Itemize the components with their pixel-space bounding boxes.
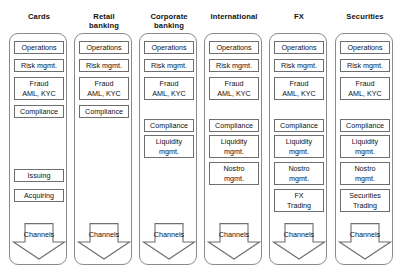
capability-box[interactable]: Risk mgmt.: [340, 59, 390, 72]
capability-map-diagram: CardsOperationsRisk mgmt.Fraud AML, KYCC…: [0, 0, 403, 277]
capability-box[interactable]: Fraud AML, KYC: [340, 77, 390, 100]
capability-box[interactable]: Compliance: [340, 119, 390, 132]
pillar-fx: OperationsRisk mgmt.Fraud AML, KYCCompli…: [269, 33, 327, 265]
capability-box[interactable]: FX Trading: [274, 189, 324, 212]
column-cards: CardsOperationsRisk mgmt.Fraud AML, KYCC…: [9, 0, 69, 277]
capability-box[interactable]: Risk mgmt.: [209, 59, 259, 72]
channels-arrow[interactable]: Channels: [77, 223, 131, 260]
capability-box[interactable]: Operations: [209, 41, 259, 54]
capability-box[interactable]: Nostro mgmt.: [209, 162, 259, 185]
capability-box[interactable]: Fraud AML, KYC: [79, 77, 129, 100]
capability-box[interactable]: Risk mgmt.: [14, 59, 64, 72]
capability-box[interactable]: Fraud AML, KYC: [274, 77, 324, 100]
capability-box[interactable]: Compliance: [274, 119, 324, 132]
channels-label: Channels: [12, 230, 66, 239]
capability-box[interactable]: Compliance: [209, 119, 259, 132]
capability-box[interactable]: Operations: [340, 41, 390, 54]
column-title-fx: FX: [263, 12, 335, 21]
channels-arrow[interactable]: Channels: [12, 223, 66, 260]
column-fx: FXOperationsRisk mgmt.Fraud AML, KYCComp…: [269, 0, 329, 277]
capability-box[interactable]: Fraud AML, KYC: [14, 77, 64, 100]
capability-box[interactable]: Liquidity mgmt.: [340, 135, 390, 158]
capability-box[interactable]: Liquidity mgmt.: [144, 135, 194, 158]
pillar-international: OperationsRisk mgmt.Fraud AML, KYCCompli…: [204, 33, 262, 265]
capability-box[interactable]: Compliance: [79, 105, 129, 118]
pillar-retail-banking: OperationsRisk mgmt.Fraud AML, KYCCompli…: [74, 33, 132, 265]
channels-arrow[interactable]: Channels: [207, 223, 261, 260]
pillar-cards: OperationsRisk mgmt.Fraud AML, KYCCompli…: [9, 33, 67, 265]
capability-box[interactable]: Risk mgmt.: [79, 59, 129, 72]
capability-box[interactable]: Securities Trading: [340, 189, 390, 212]
capability-box[interactable]: Operations: [144, 41, 194, 54]
capability-box[interactable]: Fraud AML, KYC: [144, 77, 194, 100]
capability-box[interactable]: Compliance: [14, 105, 64, 118]
capability-box[interactable]: Issuing: [14, 169, 64, 182]
channels-arrow[interactable]: Channels: [272, 223, 326, 260]
column-retail-banking: Retail bankingOperationsRisk mgmt.Fraud …: [74, 0, 134, 277]
pillar-securities: OperationsRisk mgmt.Fraud AML, KYCCompli…: [335, 33, 393, 265]
column-corporate-banking: Corporate bankingOperationsRisk mgmt.Fra…: [139, 0, 199, 277]
capability-box[interactable]: Operations: [79, 41, 129, 54]
channels-label: Channels: [77, 230, 131, 239]
column-international: InternationalOperationsRisk mgmt.Fraud A…: [204, 0, 264, 277]
capability-box[interactable]: Fraud AML, KYC: [209, 77, 259, 100]
column-title-securities: Securities: [329, 12, 401, 21]
capability-box[interactable]: Liquidity mgmt.: [274, 135, 324, 158]
capability-box[interactable]: Acquiring: [14, 189, 64, 202]
capability-box[interactable]: Risk mgmt.: [144, 59, 194, 72]
column-title-cards: Cards: [3, 12, 75, 21]
column-title-corporate-banking: Corporate banking: [133, 12, 205, 31]
channels-arrow[interactable]: Channels: [338, 223, 392, 260]
channels-label: Channels: [142, 230, 196, 239]
channels-arrow[interactable]: Channels: [142, 223, 196, 260]
capability-box[interactable]: Liquidity mgmt.: [209, 135, 259, 158]
channels-label: Channels: [207, 230, 261, 239]
capability-box[interactable]: Operations: [274, 41, 324, 54]
channels-label: Channels: [272, 230, 326, 239]
pillar-corporate-banking: OperationsRisk mgmt.Fraud AML, KYCCompli…: [139, 33, 197, 265]
capability-box[interactable]: Risk mgmt.: [274, 59, 324, 72]
capability-box[interactable]: Compliance: [144, 119, 194, 132]
capability-box[interactable]: Nostro mgmt.: [274, 162, 324, 185]
column-title-retail-banking: Retail banking: [68, 12, 140, 31]
column-title-international: International: [198, 12, 270, 21]
capability-box[interactable]: Operations: [14, 41, 64, 54]
channels-label: Channels: [338, 230, 392, 239]
capability-box[interactable]: Nostro mgmt.: [340, 162, 390, 185]
column-securities: SecuritiesOperationsRisk mgmt.Fraud AML,…: [335, 0, 395, 277]
